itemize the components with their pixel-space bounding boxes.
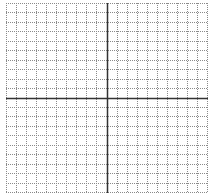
coordinate-grid (6, 3, 208, 193)
grid-canvas (6, 3, 208, 193)
